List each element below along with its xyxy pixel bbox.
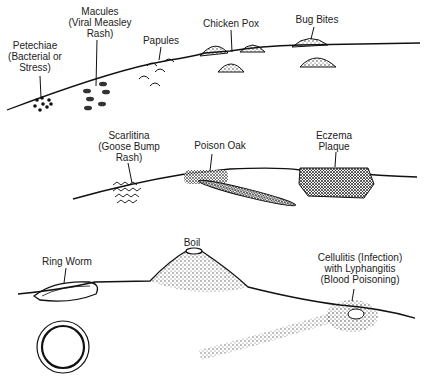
label-cellulitis: Cellulitis (Infection) with Lyphangitis … bbox=[318, 252, 402, 285]
lymph-streak bbox=[200, 318, 330, 355]
label-line: Petechiae bbox=[8, 40, 62, 51]
label-boil: Boil bbox=[184, 237, 201, 248]
ring-worm-circle bbox=[37, 321, 89, 373]
label-poison-oak: Poison Oak bbox=[194, 140, 246, 151]
label-line: Cellulitis (Infection) bbox=[318, 252, 402, 263]
label-line: Boil bbox=[184, 237, 201, 248]
label-scarlitina: Scarlitina (Goose Bump Rash) bbox=[98, 130, 160, 163]
label-eczema: Eczema Plaque bbox=[316, 130, 352, 152]
bug-bite-bumps bbox=[292, 38, 336, 67]
label-line: Stress) bbox=[8, 62, 62, 73]
poison-oak-streak bbox=[198, 177, 297, 209]
skin-lesion-illustration bbox=[0, 0, 424, 380]
cellulitis-center bbox=[348, 309, 364, 319]
label-line: Ring Worm bbox=[42, 256, 92, 267]
chicken-pox-bumps bbox=[200, 45, 265, 72]
label-line: Scarlitina bbox=[98, 130, 160, 141]
label-macules: Macules (Viral Measley Rash) bbox=[68, 6, 131, 39]
eczema-plaque bbox=[299, 168, 374, 198]
label-line: Chicken Pox bbox=[203, 18, 259, 29]
label-line: Bug Bites bbox=[296, 14, 339, 25]
label-line: (Viral Measley bbox=[68, 17, 131, 28]
label-ring-worm: Ring Worm bbox=[42, 256, 92, 267]
label-line: Rash) bbox=[68, 28, 131, 39]
label-line: Papules bbox=[143, 35, 179, 46]
label-petechiae: Petechiae (Bacterial or Stress) bbox=[8, 40, 62, 73]
label-line: (Bacterial or bbox=[8, 51, 62, 62]
label-line: (Blood Poisoning) bbox=[318, 274, 402, 285]
label-line: Rash) bbox=[98, 152, 160, 163]
boil-head bbox=[186, 248, 202, 254]
label-line: with Lyphangitis bbox=[318, 263, 402, 274]
petechiae-dots bbox=[33, 96, 53, 112]
top-panel bbox=[7, 27, 420, 112]
label-line: (Goose Bump bbox=[98, 141, 160, 152]
label-bug-bites: Bug Bites bbox=[296, 14, 339, 25]
boil-mound bbox=[150, 250, 248, 292]
label-papules: Papules bbox=[143, 35, 179, 46]
label-line: Macules bbox=[68, 6, 131, 17]
label-line: Eczema bbox=[316, 130, 352, 141]
label-line: Poison Oak bbox=[194, 140, 246, 151]
label-line: Plaque bbox=[316, 141, 352, 152]
label-chicken-pox: Chicken Pox bbox=[203, 18, 259, 29]
